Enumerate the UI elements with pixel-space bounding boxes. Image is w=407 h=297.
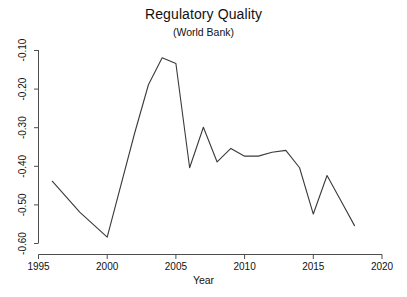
chart-figure: Regulatory Quality (World Bank) -0.10 -0… <box>0 0 407 297</box>
y-axis: -0.10 -0.20 -0.30 -0.40 -0.50 -0.60 <box>17 38 39 255</box>
y-tick-label: -0.20 <box>17 77 28 100</box>
chart-canvas: -0.10 -0.20 -0.30 -0.40 -0.50 -0.60 1995… <box>0 0 407 297</box>
y-tick-label: -0.60 <box>17 232 28 255</box>
x-tick-label: 2000 <box>96 261 119 272</box>
y-tick-label: -0.50 <box>17 193 28 216</box>
x-tick-label: 1995 <box>27 261 50 272</box>
x-tick-label: 2005 <box>165 261 188 272</box>
y-tick-label: -0.30 <box>17 116 28 139</box>
x-axis-label: Year <box>0 274 407 286</box>
x-tick-label: 2015 <box>302 261 325 272</box>
x-tick-label: 2020 <box>371 261 394 272</box>
y-tick-label: -0.40 <box>17 154 28 177</box>
y-tick-label: -0.10 <box>17 38 28 61</box>
data-series-line <box>52 58 354 237</box>
x-axis: 1995 2000 2005 2010 2015 2020 <box>27 255 393 273</box>
x-tick-label: 2010 <box>233 261 256 272</box>
